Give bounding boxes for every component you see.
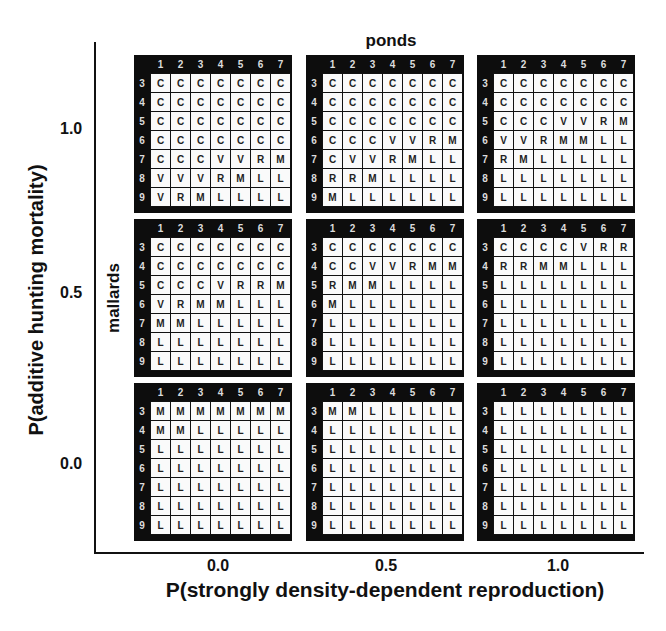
grid-cell: L [251,440,271,459]
grid-cell: L [211,421,231,440]
ponds-tick: 2 [514,383,534,402]
grid-cell: L [231,497,251,516]
grid-cell: V [211,150,231,169]
grid-cell: L [534,295,554,314]
grid-cell: C [191,93,211,112]
grid-cell: M [171,314,191,333]
mallards-tick: 5 [134,112,151,131]
grid-cell: C [231,257,251,276]
grid-cell: L [534,497,554,516]
grid-cell: L [514,497,534,516]
ponds-tick: 5 [574,219,594,238]
grid-corner [134,219,151,238]
grid-cell: L [554,188,574,207]
grid-cell: L [574,478,594,497]
grid-cell: C [383,112,403,131]
ponds-tick: 1 [151,55,171,74]
grid-cell: L [403,352,423,371]
grid-cell: V [231,150,251,169]
grid-cell: M [343,402,363,421]
grid-cell: C [494,112,514,131]
ponds-tick: 6 [594,219,614,238]
grid-cell: L [494,516,514,535]
grid-cell: L [323,516,343,535]
ponds-tick: 4 [211,55,231,74]
grid-cell: L [343,188,363,207]
grid-cell: L [594,478,614,497]
grid-cell: L [554,497,574,516]
mallards-tick: 7 [134,478,151,497]
grid-cell: L [423,421,443,440]
grid-cell: C [191,74,211,93]
grid-cell: R [251,150,271,169]
ponds-tick: 6 [423,219,443,238]
grid-cell: L [383,276,403,295]
x-axis-line [94,552,644,554]
grid-cell: L [363,478,383,497]
grid-cell: C [363,238,383,257]
grid-cell: M [534,257,554,276]
grid-cell: L [574,333,594,352]
grid-cell: C [211,257,231,276]
grid-cell: M [514,150,534,169]
grid-cell: M [403,150,423,169]
grid-cell: M [271,276,291,295]
ponds-tick: 4 [383,219,403,238]
grid-cell: L [403,314,423,333]
grid-cell: L [271,333,291,352]
grid-cell: L [574,459,594,478]
grid-cell: L [574,169,594,188]
grid-cell: M [211,402,231,421]
grid-cell: L [594,440,614,459]
grid-cell: L [251,314,271,333]
mallards-tick: 5 [306,276,323,295]
ponds-tick: 6 [594,55,614,74]
grid-cell: C [323,238,343,257]
grid-cell: M [151,421,171,440]
grid-cell: L [594,150,614,169]
grid-cell: M [271,402,291,421]
grid-cell: L [443,333,463,352]
y-tick: 1.0 [60,120,82,138]
grid-cell: L [251,421,271,440]
mallards-tick: 3 [134,74,151,93]
grid-cell: L [403,276,423,295]
grid-cell: L [343,421,363,440]
grid-cell: L [363,516,383,535]
grid-cell: L [383,169,403,188]
grid-cell: L [211,188,231,207]
grid-cell: L [614,314,634,333]
grid-cell: C [403,74,423,93]
grid-cell: L [403,169,423,188]
grid-cell: L [423,516,443,535]
grid-cell: L [534,333,554,352]
grid-cell: C [171,93,191,112]
mallards-tick: 3 [306,74,323,93]
grid-cell: C [554,74,574,93]
grid-cell: L [554,314,574,333]
grid-cell: L [594,516,614,535]
grid-cell: C [151,131,171,150]
grid-cell: L [403,459,423,478]
grid-cell: L [151,440,171,459]
ponds-tick: 2 [343,219,363,238]
grid-cell: L [494,478,514,497]
grid-corner [306,219,323,238]
grid-cell: C [403,238,423,257]
grid-cell: M [554,257,574,276]
grid-cell: L [211,314,231,333]
grid-cell: L [494,421,514,440]
mallards-tick: 4 [134,421,151,440]
grid-cell: L [494,352,514,371]
grid-cell: L [574,314,594,333]
grid-cell: C [251,74,271,93]
grid-cell: C [323,150,343,169]
grid-cell: L [423,295,443,314]
mallards-tick: 7 [134,314,151,333]
grid-cell: C [151,257,171,276]
mallards-tick: 4 [134,257,151,276]
grid-cell: C [151,93,171,112]
ponds-tick: 5 [574,55,594,74]
grid-cell: M [363,276,383,295]
grid-cell: L [211,352,231,371]
